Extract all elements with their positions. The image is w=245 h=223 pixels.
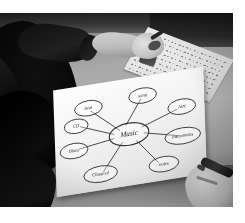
mind-map-node-blues: Blues (60, 141, 88, 160)
mind-map-center-node: Music (109, 120, 149, 148)
mind-map-node-instruments: instruments (165, 125, 201, 147)
mind-map-node-classical: Classical (84, 163, 118, 184)
mind-map-node-cd: CD (64, 117, 88, 135)
photo-frame: beat song CD Blues Jazz (0, 0, 245, 223)
mind-map-node-jazz: Jazz (168, 97, 196, 116)
photograph: beat song CD Blues Jazz (0, 13, 233, 207)
mind-map-node-beat: beat (74, 98, 102, 117)
mind-map-node-song: song (129, 86, 157, 105)
